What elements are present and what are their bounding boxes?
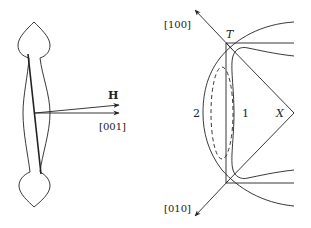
domain-wall-line: [28, 54, 41, 174]
diagram-canvas: H [001] [100] [010] T X 1 2: [0, 0, 311, 228]
line-x-to-bottom: [226, 113, 294, 183]
top-teardrop: [18, 22, 50, 58]
curve-2-label: 2: [193, 107, 200, 120]
h-label: H: [108, 89, 118, 102]
h-vector-arrow: [35, 105, 119, 113]
point-t-label: T: [226, 28, 235, 41]
axis-100-label: [100]: [164, 19, 191, 30]
point-x-label: X: [275, 107, 285, 120]
body-left-edge: [23, 58, 30, 172]
bottom-teardrop: [19, 172, 50, 207]
axis-010-arrow: [195, 181, 228, 216]
line-t-to-x: [226, 43, 294, 113]
curve-1-label: 1: [242, 107, 249, 120]
axis-010-label: [010]: [164, 203, 191, 214]
dashed-curve: [211, 67, 233, 159]
left-figure: [18, 22, 119, 207]
axis-001-label: [001]: [99, 121, 126, 132]
body-right-edge: [40, 58, 50, 172]
